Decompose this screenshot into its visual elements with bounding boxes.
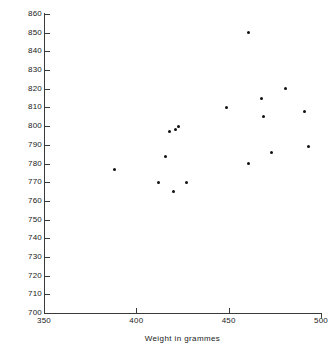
y-axis-tick [45,238,50,239]
y-axis-tick-label: 750 [8,216,42,224]
data-point [284,87,287,90]
y-axis-tick [45,313,50,314]
scatter-plot-figure: 7007107207307407507607707807908008108208… [0,0,336,353]
data-point [247,31,250,34]
y-axis-tick [45,276,50,277]
y-axis-tick-label: 760 [8,197,42,205]
data-points-layer [0,0,336,353]
data-point [270,151,273,154]
y-axis-tick-label: 720 [8,272,42,280]
data-point [157,181,160,184]
y-axis-tick-label: 730 [8,253,42,261]
y-axis-tick [45,182,50,183]
y-axis-tick [45,51,50,52]
data-point [172,190,175,193]
y-axis-tick [45,220,50,221]
data-point [307,145,310,148]
y-axis-tick-label: 770 [8,178,42,186]
x-axis-tick-label: 350 [24,317,64,325]
y-axis-tick [45,145,50,146]
data-point [174,128,177,131]
data-point [164,155,167,158]
y-axis-tick [45,294,50,295]
data-point [260,97,263,100]
y-axis-tick [45,14,50,15]
y-axis-tick-label: 800 [8,122,42,130]
y-axis-tick [45,70,50,71]
y-axis-tick [45,257,50,258]
y-axis-tick-label: 710 [8,290,42,298]
y-axis-tick [45,107,50,108]
x-axis-tick-label: 400 [116,317,156,325]
x-axis-tick-label: 500 [301,317,336,325]
data-point [113,168,116,171]
y-axis-tick-label: 740 [8,234,42,242]
y-axis-tick [45,201,50,202]
x-axis-line [44,313,321,314]
data-point [247,162,250,165]
data-point [262,115,265,118]
x-axis-tick-label: 450 [209,317,249,325]
data-point [177,125,180,128]
y-axis-tick-label: 790 [8,141,42,149]
data-point [168,130,171,133]
data-point [185,181,188,184]
x-axis-tick [229,308,230,313]
y-axis-tick-label: 830 [8,66,42,74]
y-axis-tick [45,33,50,34]
y-axis-tick-label: 850 [8,29,42,37]
y-axis-tick [45,126,50,127]
data-point [225,106,228,109]
x-axis-tick [136,308,137,313]
y-axis-tick-label: 810 [8,103,42,111]
y-axis-tick-label: 820 [8,85,42,93]
y-axis-tick-label: 840 [8,47,42,55]
x-axis-title: Weight in grammes [44,334,321,343]
y-axis-title: Length in mm [0,161,53,173]
y-axis-tick-label: 860 [8,10,42,18]
data-point [303,110,306,113]
y-axis-tick [45,89,50,90]
